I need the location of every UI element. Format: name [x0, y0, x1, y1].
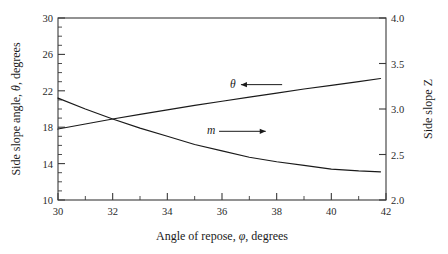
chart-figure: 30323436384042 101418222630 2.02.53.03.5…: [0, 0, 448, 254]
y2-tick-label: 3.5: [391, 59, 404, 70]
x-tick-label: 42: [381, 206, 392, 217]
y-tick-label: 18: [43, 122, 54, 133]
x-tick-label: 34: [162, 206, 173, 217]
x-tick-label: 30: [53, 206, 64, 217]
x-tick-label: 32: [107, 206, 118, 217]
dual-axis-line-chart: 30323436384042 101418222630 2.02.53.03.5…: [0, 0, 448, 254]
x-tick-label: 40: [326, 206, 337, 217]
y2-tick-label: 3.0: [391, 104, 404, 115]
y2-tick-label: 4.0: [391, 13, 404, 24]
x-axis-title: Angle of repose, φ, degrees: [156, 229, 288, 243]
curve-label-m: m: [207, 124, 215, 136]
y2-tick-label: 2.0: [391, 195, 404, 206]
x-tick-label: 38: [271, 206, 282, 217]
curve-label-θ: θ: [230, 78, 236, 90]
y-tick-label: 30: [43, 13, 54, 24]
y-tick-label: 10: [43, 195, 54, 206]
x-tick-label: 36: [217, 206, 228, 217]
y-tick-label: 26: [43, 49, 54, 60]
y-tick-label: 14: [43, 159, 54, 170]
y2-tick-label: 2.5: [391, 150, 404, 161]
y-tick-label: 22: [43, 86, 54, 97]
y-axis-title: Side slope angle, θ, degrees: [9, 42, 23, 176]
y2-axis-title: Side slope Z: [421, 79, 435, 139]
